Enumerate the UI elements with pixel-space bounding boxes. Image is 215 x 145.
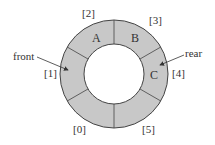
slot-3-value: B	[131, 31, 139, 45]
front-label: front	[13, 50, 34, 62]
slot-2-value: A	[92, 31, 101, 45]
rear-label: rear	[185, 47, 202, 59]
index-label-4: [4]	[172, 67, 185, 79]
index-label-3: [3]	[149, 14, 162, 26]
index-label-2: [2]	[82, 7, 95, 19]
index-label-0: [0]	[73, 123, 86, 135]
index-label-1: [1]	[44, 67, 57, 79]
circular-queue-diagram: A B C [2] [3] [1] [4] [0] [5] front rear	[0, 0, 215, 145]
slot-4-value: C	[150, 68, 158, 82]
index-label-5: [5]	[142, 123, 155, 135]
